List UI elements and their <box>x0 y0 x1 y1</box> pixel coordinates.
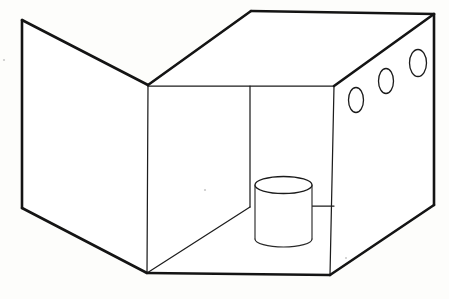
line-drawing-svg <box>0 0 449 299</box>
speck-floor-right <box>345 257 347 259</box>
cylinder-top-ellipse <box>255 177 312 194</box>
cylinder <box>254 176 313 248</box>
speck-left-margin <box>3 59 5 61</box>
hole-1-ellipse <box>349 88 364 113</box>
hole-2-ellipse <box>379 69 394 94</box>
speck-interior-wall <box>204 189 206 191</box>
hole-3-ellipse <box>410 50 427 77</box>
drawing-canvas <box>0 0 449 299</box>
